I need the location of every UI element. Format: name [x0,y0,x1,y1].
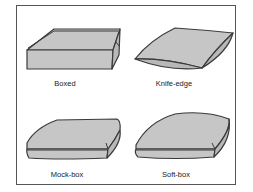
label-mock-box: Mock-box [51,170,84,179]
label-soft-box: Soft-box [162,170,190,179]
label-knife-edge: Knife-edge [156,79,192,88]
soft-box-top-face [136,113,229,149]
label-boxed: Boxed [54,79,75,88]
knife-edge-cushion-illustration [135,28,233,69]
soft-box-cushion-illustration [135,113,229,159]
mock-box-cushion-illustration [27,119,120,159]
boxed-front-face [27,50,113,69]
cushion-illustrations [0,0,253,192]
boxed-cushion-illustration [27,29,120,69]
